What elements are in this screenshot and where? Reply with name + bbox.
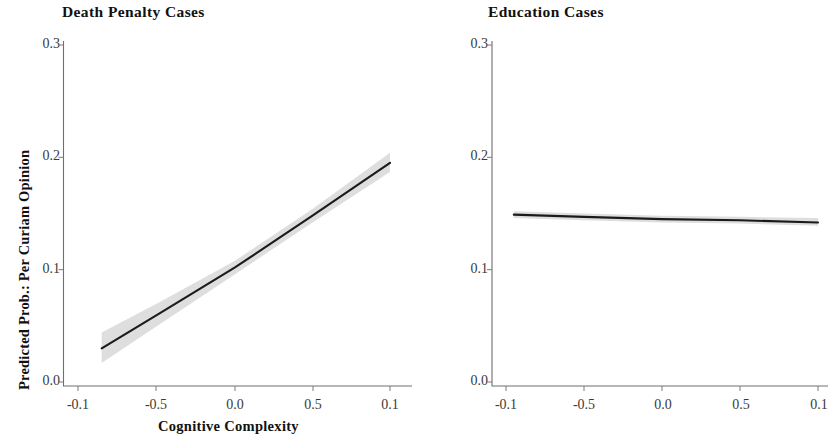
y-tick-label-left-0.1: 0.1 (20, 261, 60, 277)
panel-education: Education Cases Predicted Prob.: Per Cur… (420, 0, 831, 445)
x-tick-label-left-2: -0.5 (134, 397, 178, 413)
y-tick-label-right-0.3: 0.3 (448, 36, 488, 52)
x-tick-label-right-4: 0.5 (719, 397, 763, 413)
x-tick-label-left-5: 0.1 (368, 397, 412, 413)
y-tick-label-left-0.3: 0.3 (20, 36, 60, 52)
y-tick-label-right-0.2: 0.2 (448, 148, 488, 164)
y-tick-label-left-0.2: 0.2 (20, 148, 60, 164)
figure-panel-pair: Death Penalty Cases Predicted Prob.: Per… (0, 0, 831, 445)
y-tick-label-right-0.0: 0.0 (448, 373, 488, 389)
x-tick-label-right-3: 0.0 (641, 397, 685, 413)
x-tick-label-left-1: -0.1 (56, 397, 100, 413)
x-tick-label-right-5: 0.1 (797, 397, 831, 413)
x-tick-label-left-3: 0.0 (213, 397, 257, 413)
y-tick-label-right-0.1: 0.1 (448, 261, 488, 277)
panel-title-education: Education Cases (488, 3, 604, 21)
x-tick-label-right-1: -0.1 (484, 397, 528, 413)
panel-death-penalty: Death Penalty Cases Predicted Prob.: Per… (0, 0, 420, 445)
y-tick-label-left-0.0: 0.0 (20, 373, 60, 389)
x-axis-label-left: Cognitive Complexity (158, 418, 299, 435)
x-tick-label-right-2: -0.5 (562, 397, 606, 413)
x-tick-label-left-4: 0.5 (291, 397, 335, 413)
panel-title-death-penalty: Death Penalty Cases (62, 3, 205, 21)
